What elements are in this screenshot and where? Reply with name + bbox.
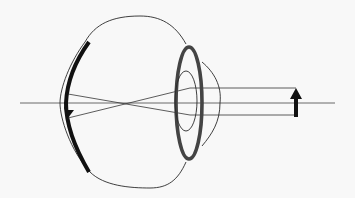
object-arrow-icon [290, 88, 302, 117]
cornea [202, 62, 220, 146]
pupil [175, 71, 197, 131]
eyeball-outline [60, 16, 186, 188]
eye-diagram-canvas [0, 0, 355, 198]
eye-optics-diagram [0, 0, 355, 198]
retina [66, 42, 89, 172]
ray-lower [68, 94, 190, 115]
